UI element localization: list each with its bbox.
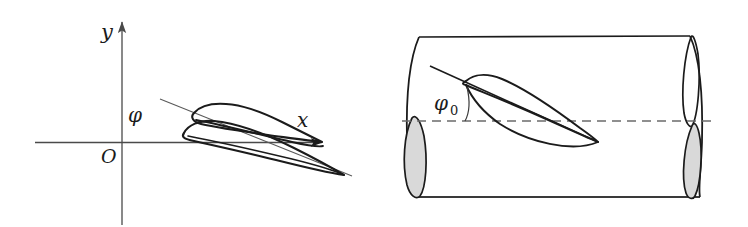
right-panel-group: φ 0 <box>402 36 716 198</box>
blade-section-right-lower <box>684 124 702 199</box>
figure-root: y x O φ <box>0 0 748 227</box>
left-panel-group: y x O φ <box>35 20 352 225</box>
cylinder-top-line <box>419 36 690 37</box>
y-axis-label: y <box>100 20 114 44</box>
origin-label: O <box>101 145 117 167</box>
phi0-angle-label: φ <box>434 91 448 115</box>
angle-arc-phi0 <box>465 87 469 121</box>
blade-section-right-upper <box>683 36 699 126</box>
phi-angle-label: φ <box>128 103 142 127</box>
x-axis-label: x <box>297 108 308 132</box>
blade-section-left <box>404 117 426 198</box>
phi0-angle-subscript: 0 <box>450 103 458 118</box>
left-panel-svg: y x O φ <box>0 0 748 227</box>
